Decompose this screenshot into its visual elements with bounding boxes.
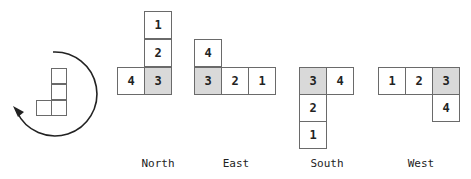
rotation-diagram: 1 2 3 4 North 4 3 2 1 East 3 4 2 1 South… [0, 0, 471, 179]
cell-east-4: 4 [194, 39, 222, 67]
cell-south-3-pivot: 3 [299, 67, 327, 95]
mini-cell [51, 84, 67, 100]
mini-cell [36, 100, 52, 116]
cell-north-1: 1 [144, 11, 172, 39]
cell-east-3-pivot: 3 [194, 67, 222, 95]
mini-cell [51, 68, 67, 84]
cell-south-4: 4 [326, 67, 354, 95]
orientation-label-west: West [408, 157, 435, 170]
cell-south-2: 2 [299, 94, 327, 122]
orientation-label-south: South [310, 157, 343, 170]
cell-north-3-pivot: 3 [144, 67, 172, 95]
cell-west-2: 2 [405, 67, 433, 95]
cell-west-3-pivot: 3 [432, 67, 460, 95]
cell-east-1: 1 [248, 67, 276, 95]
orientation-label-east: East [223, 157, 250, 170]
cell-south-1: 1 [299, 121, 327, 149]
cell-north-4: 4 [117, 67, 145, 95]
mini-cell [51, 100, 67, 116]
orientation-label-north: North [141, 157, 174, 170]
cell-west-4: 4 [432, 94, 460, 122]
cell-west-1: 1 [378, 67, 406, 95]
cell-east-2: 2 [221, 67, 249, 95]
cell-north-2: 2 [144, 39, 172, 67]
